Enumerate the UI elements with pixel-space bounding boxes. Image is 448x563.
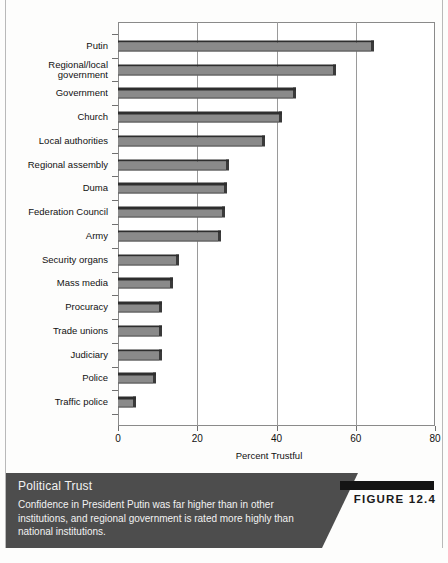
figure-badge: FIGURE 12.4 [326, 473, 438, 548]
x-tick [435, 426, 436, 431]
bar-top-face [118, 40, 374, 43]
bar [118, 349, 162, 360]
category-label: Trade unions [0, 326, 108, 337]
figure-page: PutinRegional/local governmentGovernment… [0, 0, 448, 563]
category-label: Duma [0, 183, 108, 194]
x-tick-label: 60 [350, 433, 361, 444]
bar [118, 207, 225, 218]
bar [118, 302, 162, 313]
category-tick [112, 343, 118, 344]
x-tick-label: 80 [429, 433, 440, 444]
category-tick [112, 248, 118, 249]
gridline-20 [197, 22, 198, 426]
category-tick [112, 176, 118, 177]
bar [118, 159, 229, 170]
caption-title: Political Trust [18, 479, 92, 493]
bar [118, 373, 156, 384]
bar-top-face [118, 302, 162, 305]
category-label: Traffic police [0, 397, 108, 408]
bar-fill [118, 280, 170, 289]
bar-top-face [118, 159, 229, 162]
bar-top-face [118, 230, 221, 233]
x-tick-label: 40 [271, 433, 282, 444]
bar-fill [118, 256, 176, 265]
category-tick [112, 105, 118, 106]
category-label: Church [0, 112, 108, 123]
bar-top-face [118, 349, 162, 352]
bar-top-face [118, 135, 265, 138]
bar-chart: PutinRegional/local governmentGovernment… [0, 0, 448, 470]
category-tick [112, 81, 118, 82]
category-label: Police [0, 373, 108, 384]
figure-badge-bar [340, 481, 434, 490]
bar-top-face [118, 397, 136, 400]
x-tick-label: 20 [192, 433, 203, 444]
category-tick [112, 390, 118, 391]
bar-top-face [118, 207, 225, 210]
category-tick [112, 129, 118, 130]
bar-fill [118, 399, 133, 408]
category-label: Local authorities [0, 136, 108, 147]
category-label: Putin [0, 41, 108, 52]
bar-fill [118, 42, 371, 51]
bar-fill [118, 375, 153, 384]
bar-fill [118, 185, 224, 194]
bar-top-face [118, 183, 227, 186]
bar [118, 64, 336, 75]
gridline-60 [356, 22, 357, 426]
bar-fill [118, 137, 262, 146]
bar [118, 325, 162, 336]
category-label: Mass media [0, 278, 108, 289]
bar-fill [118, 90, 293, 99]
category-label: Procuracy [0, 302, 108, 313]
bar-fill [118, 161, 226, 170]
bar-fill [118, 66, 333, 75]
x-tick-label: 0 [115, 433, 121, 444]
bar-top-face [118, 88, 296, 91]
bar-top-face [118, 112, 282, 115]
figure-number-label: FIGURE 12.4 [336, 493, 436, 505]
bar [118, 397, 136, 408]
bar-top-face [118, 278, 173, 281]
category-label: Army [0, 231, 108, 242]
x-tick [197, 426, 198, 431]
bar [118, 40, 374, 51]
bar [118, 183, 227, 194]
bar [118, 254, 179, 265]
bar [118, 230, 221, 241]
bar-top-face [118, 64, 336, 67]
bar [118, 88, 296, 99]
bar-fill [118, 327, 159, 336]
category-label: Federation Council [0, 207, 108, 218]
category-tick [112, 58, 118, 59]
category-label: Government [0, 88, 108, 99]
bar-top-face [118, 373, 156, 376]
x-tick [356, 426, 357, 431]
bar-fill [118, 209, 222, 218]
category-label: Security organs [0, 254, 108, 265]
gridline-40 [277, 22, 278, 426]
x-tick [277, 426, 278, 431]
bar-top-face [118, 254, 179, 257]
bar [118, 135, 265, 146]
category-tick [112, 224, 118, 225]
bar-top-face [118, 325, 162, 328]
category-tick [112, 272, 118, 273]
x-tick [118, 426, 119, 431]
bar-fill [118, 114, 279, 123]
bar [118, 278, 173, 289]
bar-fill [118, 304, 159, 313]
category-tick [112, 295, 118, 296]
page-bottom-edge [0, 549, 448, 563]
caption-body: Confidence in President Putin was far hi… [18, 498, 318, 539]
category-tick [112, 153, 118, 154]
category-axis-labels: PutinRegional/local governmentGovernment… [0, 22, 114, 426]
category-tick [112, 200, 118, 201]
x-axis-title: Percent Trustful [0, 450, 448, 461]
category-label: Judiciary [0, 349, 108, 360]
category-tick [112, 367, 118, 368]
bar-fill [118, 351, 159, 360]
category-tick [112, 319, 118, 320]
category-tick [112, 34, 118, 35]
bar [118, 112, 282, 123]
